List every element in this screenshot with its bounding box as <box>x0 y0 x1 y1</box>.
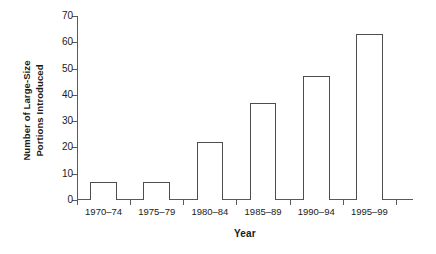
bar-chart: Number of Large-Size Portions Introduced… <box>0 0 436 254</box>
bar <box>197 142 224 200</box>
x-axis-tick-mark <box>290 200 291 205</box>
x-axis-tick-mark <box>396 200 397 205</box>
y-axis-line <box>77 16 78 200</box>
plot-area: 010203040506070 <box>77 16 413 200</box>
x-axis-title: Year <box>77 228 413 239</box>
bar <box>250 103 277 200</box>
x-axis-tick-mark <box>130 200 131 205</box>
y-axis-title-line-2: Portions Introduced <box>33 60 46 160</box>
bar <box>143 182 170 200</box>
y-axis-tick-label: 60 <box>62 37 73 47</box>
bar <box>90 182 117 200</box>
y-axis-title-line-1: Number of Large-Size <box>21 60 34 160</box>
y-axis-tick-label: 70 <box>62 11 73 21</box>
y-axis-tick-label: 50 <box>62 64 73 74</box>
bar <box>356 34 383 200</box>
x-axis-tick-mark <box>343 200 344 205</box>
bar <box>303 76 330 200</box>
y-axis-tick-label: 30 <box>62 116 73 126</box>
x-axis-tick-mark <box>183 200 184 205</box>
y-axis-tick-label: 10 <box>62 169 73 179</box>
y-axis-tick-label: 20 <box>62 142 73 152</box>
y-axis-tick-label: 40 <box>62 90 73 100</box>
y-axis-title: Number of Large-Size Portions Introduced <box>16 14 50 206</box>
y-axis-tick-label: 0 <box>67 195 73 205</box>
x-axis-tick-label: 1995–99 <box>329 207 409 217</box>
x-axis-tick-mark <box>236 200 237 205</box>
x-axis-tick-mark <box>77 200 78 205</box>
